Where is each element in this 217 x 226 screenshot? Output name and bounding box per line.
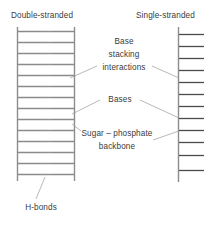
label-h-bonds: H-bonds [25, 203, 57, 212]
label-sugar-phosphate-line2: backbone [99, 142, 136, 151]
label-base-stacking-line2: stacking [109, 50, 140, 59]
label-layer: Double-stranded Single-stranded Base sta… [0, 0, 217, 226]
label-bases: Bases [108, 95, 131, 104]
label-base-stacking-line3: interactions [102, 63, 145, 72]
heading-single-stranded: Single-stranded [136, 11, 195, 20]
heading-double-stranded: Double-stranded [11, 11, 73, 20]
label-base-stacking-line1: Base [114, 37, 133, 46]
label-sugar-phosphate-line1: Sugar – phosphate [82, 129, 153, 138]
nucleic-acid-structure-figure: Double-stranded Single-stranded Base sta… [0, 0, 217, 226]
